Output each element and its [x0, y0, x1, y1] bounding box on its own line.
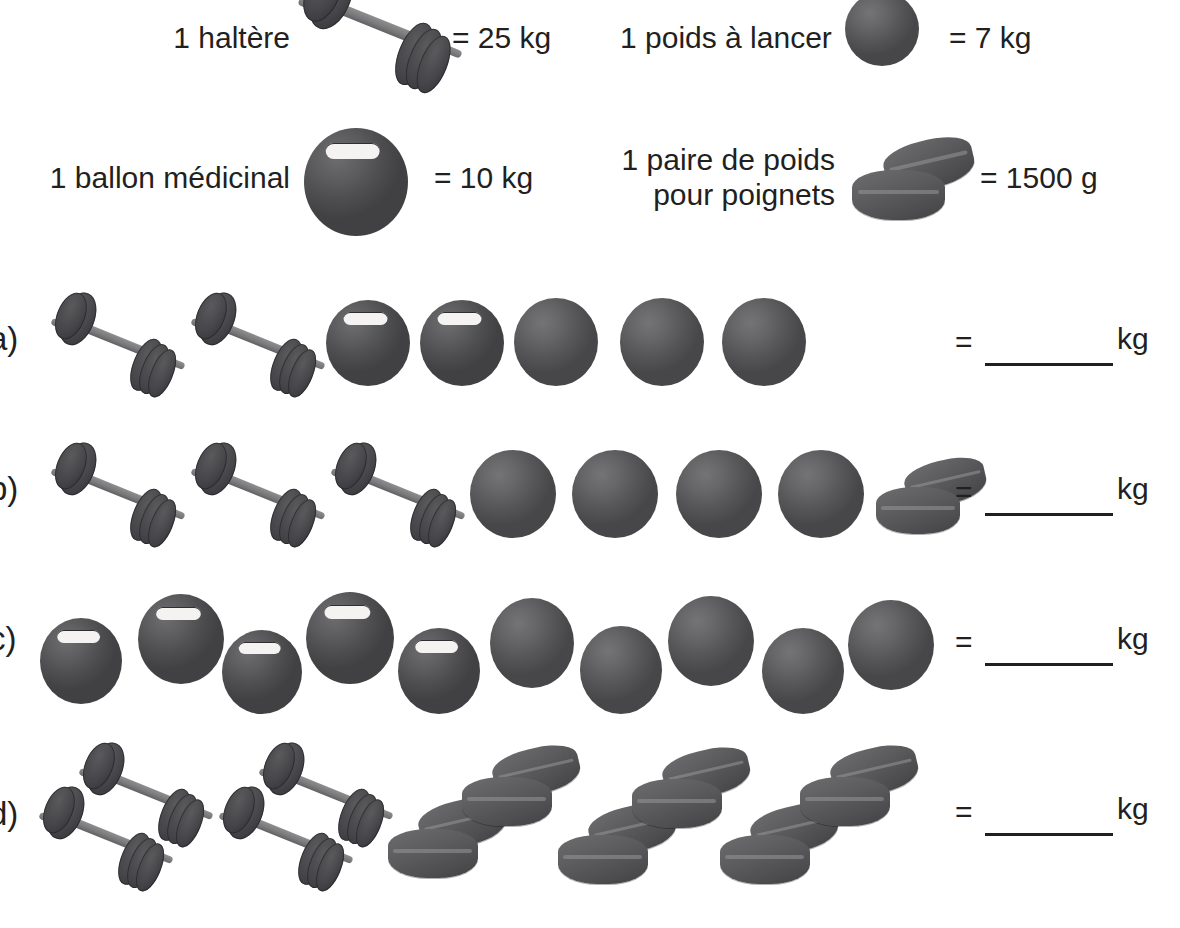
shot-put-icon [668, 596, 754, 686]
answer-unit-b: kg [1117, 472, 1149, 506]
shot-put-icon [514, 298, 598, 386]
shot-put-icon [848, 600, 934, 690]
dumbbell-icon [328, 442, 468, 540]
medicine-ball-icon [326, 300, 410, 386]
legend-label-shot-put: 1 poids à lancer [620, 20, 832, 55]
row-label-b: b) [0, 470, 18, 508]
shot-put-icon [722, 298, 806, 386]
dumbbell-icon [216, 786, 356, 884]
legend-value-shot-put: = 7 kg [949, 20, 1032, 55]
equals-sign: = [955, 625, 973, 659]
shot-put-icon [490, 598, 574, 688]
dumbbell-icon [188, 292, 328, 390]
equals-sign: = [955, 475, 973, 509]
medicine-ball-icon [420, 300, 504, 386]
row-label-d: d) [0, 795, 18, 833]
shot-put-icon [676, 450, 762, 538]
shot-put-icon [620, 298, 704, 386]
shot-put-icon [778, 450, 864, 538]
row-label-a: a) [0, 320, 18, 358]
shot-put-icon [572, 450, 658, 538]
answer-blank-b[interactable] [985, 513, 1113, 516]
answer-blank-a[interactable] [985, 363, 1113, 366]
medicine-ball-icon [306, 592, 394, 684]
worksheet-page: 1 haltère = 25 kg 1 poids à lancer = 7 k… [0, 0, 1180, 928]
dumbbell-icon [295, 0, 465, 84]
legend-value-dumbbell: = 25 kg [452, 20, 551, 55]
medicine-ball-icon [222, 630, 302, 714]
answer-unit-a: kg [1117, 322, 1149, 356]
medicine-ball-icon [40, 618, 122, 704]
equals-sign: = [955, 325, 973, 359]
medicine-ball-icon [138, 594, 224, 684]
legend-value-wrist-weight: = 1500 g [980, 160, 1098, 195]
dumbbell-icon [48, 442, 188, 540]
legend-label-medicine-ball: 1 ballon médicinal [10, 160, 290, 195]
medicine-ball-icon [304, 128, 408, 236]
row-label-c: c) [0, 620, 17, 658]
answer-unit-d: kg [1117, 792, 1149, 826]
shot-put-icon [470, 450, 556, 538]
dumbbell-icon [36, 786, 176, 884]
dumbbell-icon [48, 292, 188, 390]
wrist-weight-icon [852, 140, 974, 222]
equals-sign: = [955, 795, 973, 829]
answer-unit-c: kg [1117, 622, 1149, 656]
shot-put-icon [580, 626, 662, 714]
dumbbell-icon [188, 442, 328, 540]
legend-label-wrist-weight: 1 paire de poids pour poignets [590, 142, 835, 213]
legend-label-dumbbell: 1 haltère [40, 20, 290, 55]
medicine-ball-icon [398, 628, 480, 714]
legend-value-medicine-ball: = 10 kg [434, 160, 533, 195]
wrist-weight-icon [800, 748, 918, 828]
answer-blank-d[interactable] [985, 833, 1113, 836]
shot-put-icon [762, 628, 844, 714]
shot-put-icon [845, 0, 919, 66]
answer-blank-c[interactable] [985, 663, 1113, 666]
